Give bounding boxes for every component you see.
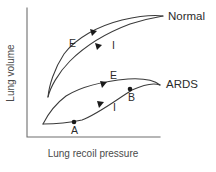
pressure-volume-curve-figure: Normal ARDS E I E I A B Lung recoil pres… [0, 0, 216, 172]
normal-inspiratory-arrow-icon [95, 43, 102, 50]
phase-label-normal-inspiratory: I [112, 39, 115, 51]
point-label-a: A [71, 124, 78, 136]
point-label-b: B [128, 91, 135, 103]
plot-canvas: Normal ARDS E I E I A B Lung recoil pres… [0, 0, 216, 172]
curve-label-ards: ARDS [166, 78, 198, 90]
y-axis-title: Lung volume [5, 44, 16, 102]
phase-label-ards-inspiratory: I [113, 101, 116, 113]
normal-expiratory-arrow-icon [90, 29, 97, 36]
curve-label-normal: Normal [168, 10, 205, 22]
phase-label-ards-expiratory: E [110, 69, 117, 81]
phase-label-normal-expiratory: E [69, 37, 76, 49]
ards-expiratory-arrow-icon [100, 81, 107, 88]
ards-inspiratory-arrow-icon [97, 101, 104, 108]
x-axis-title: Lung recoil pressure [48, 148, 139, 159]
